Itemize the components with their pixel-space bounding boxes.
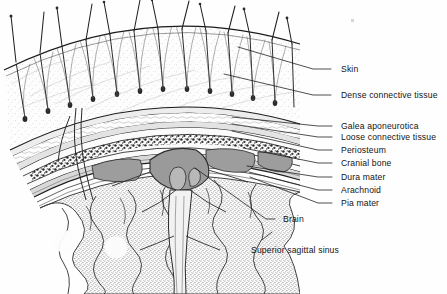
- label-cranial-bone: Cranial bone: [341, 158, 392, 168]
- label-skin: Skin: [341, 64, 358, 74]
- anatomy-figure: Skin Dense connective tissue Galea apone…: [0, 0, 447, 294]
- label-loose-connective-tissue: Loose connective tissue: [341, 132, 436, 142]
- scan-speck-artifact: [351, 19, 354, 22]
- anatomy-illustration: Skin Dense connective tissue Galea apone…: [0, 0, 447, 294]
- label-brain: Brain: [283, 214, 304, 224]
- label-superior-sagittal-sinus: Superior sagittal sinus: [251, 245, 339, 255]
- label-pia-mater: Pia mater: [341, 198, 379, 208]
- label-arachnoid: Arachnoid: [341, 185, 381, 195]
- label-dura-mater: Dura mater: [341, 172, 385, 182]
- label-dense-connective-tissue: Dense connective tissue: [341, 90, 438, 100]
- label-galea-aponeurotica: Galea aponeurotica: [341, 121, 419, 131]
- label-periosteum: Periosteum: [341, 145, 386, 155]
